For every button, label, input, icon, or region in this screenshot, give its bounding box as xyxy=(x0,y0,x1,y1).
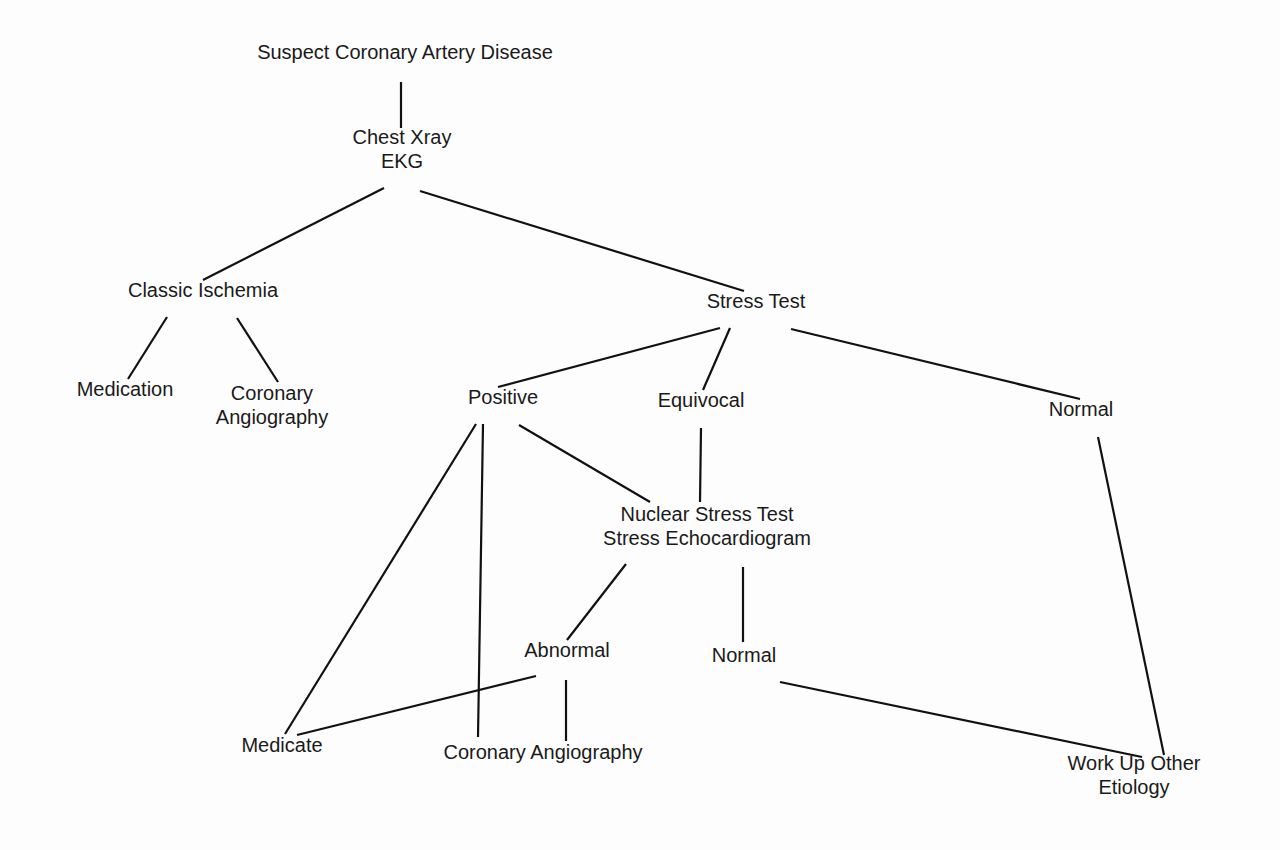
edge-normal_1-to-workup xyxy=(1098,437,1164,755)
node-label: Coronary Angiography xyxy=(443,740,642,764)
node-coronary-angiography-2: Coronary Angiography xyxy=(443,740,642,764)
diagram-canvas: Suspect Coronary Artery Disease Chest Xr… xyxy=(0,0,1280,850)
edge-positive-to-medicate xyxy=(285,424,476,734)
node-label: Equivocal xyxy=(658,388,745,412)
edge-nuclear-to-abnormal xyxy=(567,564,626,640)
node-chest-xray-ekg: Chest Xray EKG xyxy=(353,125,452,173)
node-equivocal: Equivocal xyxy=(658,388,745,412)
node-coronary-angiography-1: Coronary Angiography xyxy=(216,381,328,429)
node-label: Stress Echocardiogram xyxy=(603,526,811,550)
node-label: Abnormal xyxy=(524,638,610,662)
node-label: Classic Ischemia xyxy=(128,278,278,302)
edge-positive-to-nuclear xyxy=(519,425,650,502)
node-label: Normal xyxy=(1049,397,1113,421)
node-medicate: Medicate xyxy=(241,733,322,757)
node-label: Medicate xyxy=(241,733,322,757)
node-stress-test: Stress Test xyxy=(707,289,806,313)
node-label: Coronary xyxy=(216,381,328,405)
node-positive: Positive xyxy=(468,385,538,409)
node-label: Angiography xyxy=(216,405,328,429)
edge-cxr-to-classic xyxy=(203,188,384,280)
edge-stress-to-normal_1 xyxy=(791,329,1080,399)
node-classic-ischemia: Classic Ischemia xyxy=(128,278,278,302)
node-label: Medication xyxy=(77,377,174,401)
edge-classic-to-cor_ang_1 xyxy=(237,318,278,382)
node-work-up-other-etiology: Work Up Other Etiology xyxy=(1068,751,1201,799)
node-label: Stress Test xyxy=(707,289,806,313)
node-label: Work Up Other xyxy=(1068,751,1201,775)
connector-lines xyxy=(0,0,1280,850)
node-label: Etiology xyxy=(1068,775,1201,799)
edge-normal_2-to-workup xyxy=(780,682,1142,757)
node-nuclear-stress-echo: Nuclear Stress Test Stress Echocardiogra… xyxy=(603,502,811,550)
node-suspect-cad: Suspect Coronary Artery Disease xyxy=(257,40,553,64)
node-normal-imaging: Normal xyxy=(712,643,776,667)
edge-classic-to-medication xyxy=(128,317,167,379)
node-label: EKG xyxy=(353,149,452,173)
node-label: Suspect Coronary Artery Disease xyxy=(257,40,553,64)
node-label: Positive xyxy=(468,385,538,409)
edge-equivocal-to-nuclear xyxy=(700,428,701,502)
node-label: Normal xyxy=(712,643,776,667)
edge-stress-to-positive xyxy=(498,328,720,387)
edge-stress-to-equivocal xyxy=(703,328,730,390)
node-normal-stress: Normal xyxy=(1049,397,1113,421)
node-medication: Medication xyxy=(77,377,174,401)
node-label: Chest Xray xyxy=(353,125,452,149)
node-abnormal: Abnormal xyxy=(524,638,610,662)
node-label: Nuclear Stress Test xyxy=(603,502,811,526)
edge-abnormal-to-medicate xyxy=(297,676,536,735)
edge-cxr-to-stress xyxy=(420,191,744,291)
